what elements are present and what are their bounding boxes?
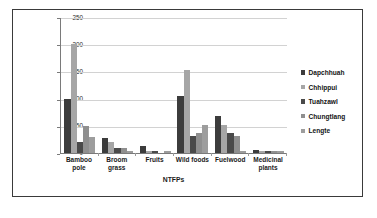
bar-chhippui-bamboo-pole xyxy=(71,44,77,153)
x-label-line2: grass xyxy=(98,164,136,172)
x-label-line1: Wild foods xyxy=(173,156,211,164)
x-label-wild-foods: Wild foods xyxy=(173,156,211,172)
legend-swatch-icon xyxy=(301,99,305,103)
chart-figure-frame: Quantity of NTFPs harvest (kg/hh/year) 2… xyxy=(12,9,363,197)
legend-item-lengte[interactable]: Lengte xyxy=(301,127,363,134)
legend-swatch-icon xyxy=(301,70,305,74)
x-label-fuelwood: Fuelwood xyxy=(211,156,249,172)
legend-swatch-icon xyxy=(301,114,305,118)
x-label-line2: pole xyxy=(60,164,98,172)
legend-label: Chhippui xyxy=(309,84,338,91)
x-label-line2: plants xyxy=(249,164,287,172)
bar-group-wild-foods xyxy=(174,18,212,153)
bar-lengte-wild-foods xyxy=(202,125,208,153)
x-label-line1: Fuelwood xyxy=(211,156,249,164)
x-axis-labels: Bamboo pole Broom grass Fruits Wild food… xyxy=(60,156,287,172)
bar-lengte-bamboo-pole xyxy=(89,137,95,153)
bar-lengte-fuelwood xyxy=(240,151,246,153)
bar-lengte-fruits xyxy=(164,151,170,153)
x-label-bamboo-pole: Bamboo pole xyxy=(60,156,98,172)
legend-label: Lengte xyxy=(309,127,331,134)
chart-screenshot: Quantity of NTFPs harvest (kg/hh/year) 2… xyxy=(0,0,377,218)
legend-label: Tuahzawl xyxy=(309,98,338,105)
legend-swatch-icon xyxy=(301,85,305,89)
x-label-line1: Broom xyxy=(98,156,136,164)
figure-caption xyxy=(6,200,372,216)
plot-area xyxy=(60,18,287,154)
legend-label: Chungtlang xyxy=(309,113,346,120)
legend-item-chhippui[interactable]: Chhippui xyxy=(301,84,363,91)
bar-tuahzawl-fruits xyxy=(152,151,158,153)
bar-group-broom-grass xyxy=(99,18,137,153)
legend-item-chungtlang[interactable]: Chungtlang xyxy=(301,113,363,120)
legend-item-dapchhuah[interactable]: Dapchhuah xyxy=(301,69,363,76)
x-label-line1: Medicinal xyxy=(249,156,287,164)
x-axis-title: NTFPs xyxy=(60,176,287,183)
x-label-fruits: Fruits xyxy=(136,156,174,172)
bar-group-fruits xyxy=(136,18,174,153)
x-label-broom-grass: Broom grass xyxy=(98,156,136,172)
x-label-line1: Bamboo xyxy=(60,156,98,164)
bar-group-bamboo-pole xyxy=(61,18,99,153)
x-label-medicinal-plants: Medicinal plants xyxy=(249,156,287,172)
legend-item-tuahzawl[interactable]: Tuahzawl xyxy=(301,98,363,105)
legend-label: Dapchhuah xyxy=(309,69,345,76)
bar-chungtlang-fuelwood xyxy=(234,136,240,153)
x-label-line1: Fruits xyxy=(136,156,174,164)
legend-swatch-icon xyxy=(301,129,305,133)
bar-group-medicinal-plants xyxy=(249,18,287,153)
bar-lengte-medicinal-plants xyxy=(277,151,283,153)
bar-lengte-broom-grass xyxy=(127,151,133,153)
bar-group-fuelwood xyxy=(212,18,250,153)
chart-legend: DapchhuahChhippuiTuahzawlChungtlangLengt… xyxy=(301,69,363,142)
bar-groups xyxy=(61,18,287,153)
